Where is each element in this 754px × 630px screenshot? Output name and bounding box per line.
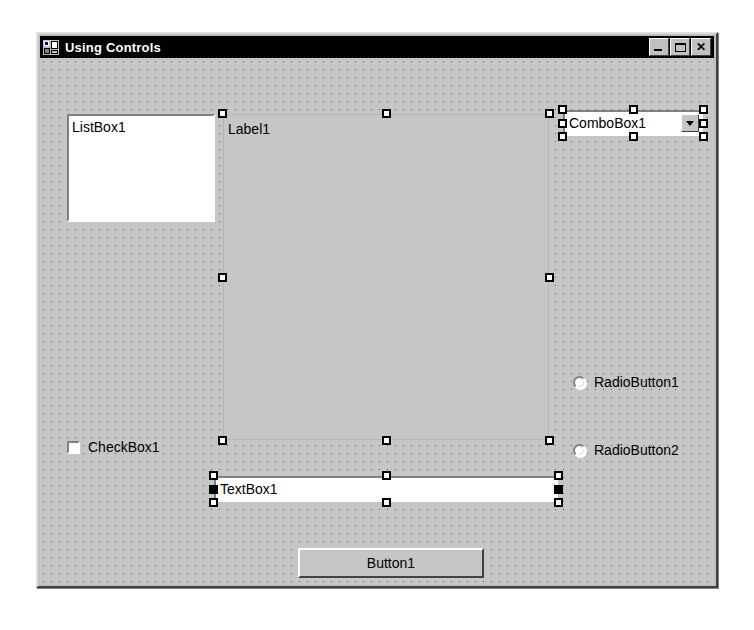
combobox-text: ComboBox1 [569,115,646,131]
title-bar[interactable]: Using Controls ✕ [40,36,714,58]
minimize-icon [654,49,662,51]
handle-middle-right[interactable] [545,273,554,282]
label-control[interactable]: Label1 [223,114,549,440]
listbox-control[interactable]: ListBox1 [67,114,215,222]
combobox-dropdown-button[interactable] [681,114,699,132]
application-icon [42,39,60,56]
checkbox-indicator-icon [67,441,80,454]
button-control[interactable]: Button1 [298,548,484,578]
handle-middle-left[interactable] [558,119,567,128]
handle-bottom-left[interactable] [558,132,567,141]
checkbox-label: CheckBox1 [88,440,160,454]
handle-middle-right[interactable] [699,119,708,128]
handle-top-right[interactable] [699,105,708,114]
maximize-icon [675,43,686,52]
listbox-label: ListBox1 [72,119,126,135]
window-controls: ✕ [649,38,711,56]
handle-bottom-center[interactable] [629,132,638,141]
radio-indicator-icon [573,376,586,389]
radiobutton-2-control[interactable]: RadioButton2 [573,441,714,459]
minimize-button[interactable] [649,38,669,56]
handle-bottom-right[interactable] [699,132,708,141]
handle-top-left[interactable] [209,471,218,480]
checkbox-control[interactable]: CheckBox1 [67,438,217,456]
button-label: Button1 [367,555,415,571]
screenshot-root: Using Controls ✕ ListBox1 Label [0,0,754,630]
form-design-surface[interactable]: ListBox1 Label1 ComboBox1 [40,58,714,584]
maximize-button[interactable] [670,38,690,56]
handle-top-right[interactable] [545,109,554,118]
label-text: Label1 [228,121,270,137]
handle-bottom-left[interactable] [218,436,227,445]
handle-bottom-center[interactable] [382,436,391,445]
handle-top-center[interactable] [382,471,391,480]
radiobutton-2-label: RadioButton2 [594,443,679,457]
radiobutton-1-label: RadioButton1 [594,375,679,389]
close-button[interactable]: ✕ [691,38,711,56]
textbox-value: TextBox1 [220,481,278,497]
handle-middle-right[interactable] [554,485,563,494]
handle-bottom-center[interactable] [382,498,391,507]
chevron-down-icon [686,121,694,126]
handle-bottom-right[interactable] [554,498,563,507]
handle-top-center[interactable] [629,105,638,114]
radio-indicator-icon [573,444,586,457]
handle-bottom-left[interactable] [209,498,218,507]
handle-bottom-right[interactable] [545,436,554,445]
handle-middle-left[interactable] [209,485,218,494]
window-title: Using Controls [65,40,649,55]
handle-top-center[interactable] [382,109,391,118]
handle-top-left[interactable] [558,105,567,114]
close-icon: ✕ [696,42,706,52]
handle-top-right[interactable] [554,471,563,480]
form-designer-window: Using Controls ✕ ListBox1 Label [36,32,718,588]
handle-middle-left[interactable] [218,273,227,282]
radiobutton-1-control[interactable]: RadioButton1 [573,373,714,391]
handle-top-left[interactable] [218,109,227,118]
